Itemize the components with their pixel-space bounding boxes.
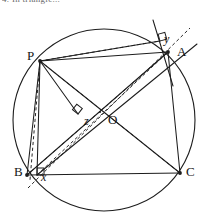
dot-C <box>178 171 182 175</box>
side-AB <box>27 52 168 175</box>
perpendicular-P-to-y <box>40 41 160 61</box>
dot-O <box>99 111 101 113</box>
dot-B <box>25 173 29 177</box>
dot-P <box>38 59 42 63</box>
side-BC <box>27 173 180 175</box>
simson-ray-through-A <box>37 44 197 175</box>
side-AC <box>168 52 180 173</box>
geometry-figure: 4. In triangle... PABCOxyz <box>0 0 206 224</box>
point-label-B: B <box>14 164 23 180</box>
solid-lines-layer <box>27 20 197 175</box>
point-label-x: x <box>41 170 46 185</box>
point-label-P: P <box>27 48 34 64</box>
chord-PA <box>40 52 168 61</box>
dashed-x-to-A <box>37 52 168 175</box>
point-label-y: y <box>164 32 169 47</box>
dot-A <box>166 50 170 54</box>
diagram-canvas <box>0 0 206 224</box>
point-label-z: z <box>84 114 89 129</box>
point-label-O: O <box>108 112 117 128</box>
point-label-A: A <box>177 44 186 60</box>
point-label-C: C <box>186 164 195 180</box>
